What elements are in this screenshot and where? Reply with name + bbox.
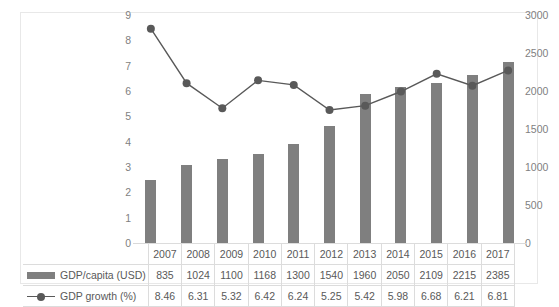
table-year-header-cell: 2010: [248, 244, 281, 265]
table-year-header-cell: 2017: [481, 244, 514, 265]
table-year-header-cell: 2015: [415, 244, 448, 265]
table-corner-cell: [23, 244, 148, 265]
table-value-cell: 2109: [415, 265, 448, 286]
y-tick-right: 1000: [525, 162, 548, 172]
table-year-header-cell: 2009: [215, 244, 248, 265]
y-axis-left: 9876543210: [109, 15, 131, 243]
line-marker: [397, 88, 405, 96]
line-path: [151, 29, 508, 110]
y-tick-left: 1: [125, 213, 131, 223]
table-header-row: 2007200820092010201120122013201420152016…: [23, 244, 515, 265]
legend-cell: GDP growth (%): [23, 286, 148, 307]
table-value-cell: 5.98: [381, 286, 414, 307]
y-tick-left: 6: [125, 86, 131, 96]
table-value-cell: 5.42: [348, 286, 381, 307]
table-value-cell: 5.25: [315, 286, 348, 307]
line-marker: [326, 106, 334, 114]
bar-swatch-icon: [27, 272, 55, 279]
y-tick-right: 1500: [525, 124, 548, 134]
table-year-header-cell: 2013: [348, 244, 381, 265]
y-tick-left: 4: [125, 137, 131, 147]
table-value-cell: 2385: [481, 265, 514, 286]
y-tick-left: 8: [125, 35, 131, 45]
line-marker: [254, 76, 262, 84]
y-tick-right: 3000: [525, 10, 548, 20]
table-value-cell: 835: [148, 265, 181, 286]
y-tick-left: 7: [125, 61, 131, 71]
plot-region: [133, 15, 526, 243]
y-tick-left: 5: [125, 111, 131, 121]
line-marker: [504, 66, 512, 74]
line-marker: [361, 102, 369, 110]
table-year-header-cell: 2012: [315, 244, 348, 265]
table-row: GDP/capita (USD)835102411001168130015401…: [23, 265, 515, 286]
table-value-cell: 2050: [381, 265, 414, 286]
table-value-cell: 6.68: [415, 286, 448, 307]
table-year-header-cell: 2016: [448, 244, 481, 265]
table-year-header-cell: 2011: [281, 244, 314, 265]
line-marker: [290, 81, 298, 89]
line-marker: [218, 104, 226, 112]
table-value-cell: 1100: [215, 265, 248, 286]
table-value-cell: 1024: [182, 265, 215, 286]
line-marker: [147, 25, 155, 33]
data-table: 2007200820092010201120122013201420152016…: [23, 243, 515, 307]
table-year-header-cell: 2008: [182, 244, 215, 265]
y-tick-left: 2: [125, 187, 131, 197]
y-tick-left: 9: [125, 10, 131, 20]
table-value-cell: 6.24: [281, 286, 314, 307]
legend-label: GDP/capita (USD): [60, 269, 146, 281]
line-marker: [183, 79, 191, 87]
table-year-header-cell: 2014: [381, 244, 414, 265]
table-year-header-cell: 2007: [148, 244, 181, 265]
table-value-cell: 1960: [348, 265, 381, 286]
y-tick-right: 2500: [525, 48, 548, 58]
table-value-cell: 6.31: [182, 286, 215, 307]
table-row: GDP growth (%)8.466.315.326.426.245.255.…: [23, 286, 515, 307]
y-tick-right: 2000: [525, 86, 548, 96]
table-value-cell: 1540: [315, 265, 348, 286]
table-value-cell: 1168: [248, 265, 281, 286]
table-value-cell: 5.32: [215, 286, 248, 307]
table-value-cell: 1300: [281, 265, 314, 286]
chart-container: 9876543210 300025002000150010005000 2007…: [20, 12, 538, 284]
line-marker: [433, 70, 441, 78]
table-value-cell: 2215: [448, 265, 481, 286]
y-tick-left: 3: [125, 162, 131, 172]
legend-cell: GDP/capita (USD): [23, 265, 148, 286]
table-value-cell: 8.46: [148, 286, 181, 307]
table-value-cell: 6.42: [248, 286, 281, 307]
line-marker-swatch-icon: [27, 292, 55, 301]
table-value-cell: 6.21: [448, 286, 481, 307]
table-value-cell: 6.81: [481, 286, 514, 307]
line-marker: [468, 82, 476, 90]
y-tick-right: 500: [525, 200, 543, 210]
line-series-layer: [133, 15, 526, 243]
legend-label: GDP growth (%): [60, 290, 136, 302]
